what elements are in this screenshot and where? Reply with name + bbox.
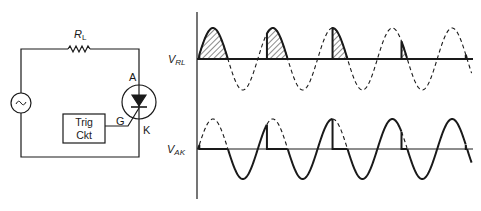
cathode-label: K bbox=[143, 124, 151, 136]
vak-waveform bbox=[197, 119, 473, 179]
trigger-label-line1: Trig bbox=[75, 116, 93, 128]
vrl-label: VRL bbox=[168, 53, 186, 67]
scr-phase-control-diagram: RL A K G Trig Ckt VRL VAK bbox=[0, 0, 481, 211]
vrl-waveform bbox=[197, 28, 473, 90]
vak-label: VAK bbox=[167, 143, 186, 157]
resistor-icon bbox=[68, 46, 90, 52]
sine-glyph-icon bbox=[16, 101, 26, 105]
wire-top-left bbox=[21, 49, 68, 93]
trigger-label-line2: Ckt bbox=[76, 129, 92, 141]
scr-diode-triangle-icon bbox=[132, 95, 146, 106]
gate-label: G bbox=[116, 115, 125, 127]
anode-label: A bbox=[129, 71, 137, 83]
load-resistor-label: RL bbox=[74, 28, 87, 42]
